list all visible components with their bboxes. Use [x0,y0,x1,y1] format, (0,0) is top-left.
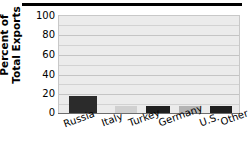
y-axis-label-line2: Total Exports [11,0,23,93]
gridline-60 [59,55,239,56]
y-tick-40: 40 [29,70,55,80]
title-underline-rule [22,3,242,6]
x-axis-tick-labels: Russia Italy Turkey Germany U.S. Other [0,114,252,143]
y-axis-label-line1: Percent of [0,0,11,93]
x-label-italy: Italy [100,111,124,129]
gridline-80 [59,35,239,36]
x-label-us: U.S. [198,111,221,128]
gridline-70 [59,45,239,46]
gridline-40 [59,75,239,76]
gridline-90 [59,25,239,26]
y-tick-20: 20 [29,89,55,99]
gridline-50 [59,65,239,66]
y-axis-label: Percent of Total Exports [0,0,29,93]
y-tick-100: 100 [29,11,55,21]
plot-area [58,15,240,114]
chart-title [22,0,242,2]
y-tick-80: 80 [29,30,55,40]
bar-chart: Percent of Total Exports 100 80 60 40 20… [0,0,252,143]
y-tick-60: 60 [29,50,55,60]
gridline-30 [59,84,239,85]
